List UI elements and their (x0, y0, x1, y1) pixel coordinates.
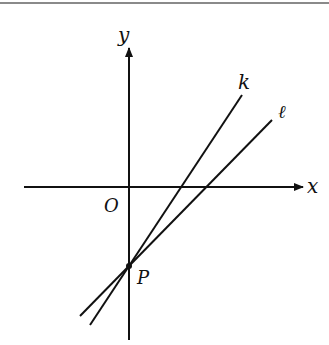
line-l (80, 120, 272, 316)
line-k-label: k (238, 70, 250, 94)
x-axis-label: x (307, 174, 318, 198)
coordinate-diagram: y x O P k ℓ (0, 0, 329, 345)
point-p-label: P (136, 267, 150, 288)
origin-label: O (104, 195, 119, 216)
point-p (126, 263, 132, 269)
y-axis-label: y (117, 23, 130, 47)
line-l-label: ℓ (278, 101, 286, 122)
